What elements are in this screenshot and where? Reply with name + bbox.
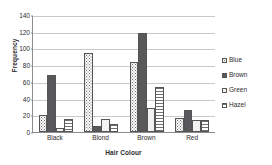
- y-axis-tick-label: 0: [8, 130, 30, 137]
- bar-group: [170, 16, 216, 132]
- bar: [192, 120, 201, 132]
- y-axis-tick-label: 60: [8, 80, 30, 87]
- x-axis-tick-label: Black: [32, 135, 78, 142]
- plot-area: 020406080100120140: [32, 16, 215, 133]
- legend-item: Hazel: [222, 102, 247, 109]
- bar: [56, 128, 65, 132]
- bar: [47, 75, 56, 132]
- legend-item: Blue: [222, 57, 247, 64]
- bar-group: [79, 16, 125, 132]
- legend-item: Brown: [222, 72, 247, 79]
- legend-swatch-icon: [222, 88, 227, 93]
- bar-group: [33, 16, 79, 132]
- bar-group: [124, 16, 170, 132]
- x-axis-tick-label: Red: [169, 135, 215, 142]
- legend-swatch-icon: [222, 73, 227, 78]
- bar: [84, 53, 93, 132]
- bar: [138, 33, 147, 132]
- legend: BlueBrownGreenHazel: [222, 57, 247, 109]
- y-axis-tick-label: 40: [8, 96, 30, 103]
- y-axis-tick-label: 120: [8, 29, 30, 36]
- bar: [93, 126, 102, 132]
- y-axis-tick-label: 80: [8, 63, 30, 70]
- legend-label: Blue: [229, 57, 242, 64]
- legend-label: Green: [229, 87, 247, 94]
- bar: [201, 120, 210, 132]
- legend-swatch-icon: [222, 58, 227, 63]
- bar: [64, 119, 73, 132]
- bar: [184, 110, 193, 132]
- x-axis-tick-labels: BlackBlondBrownRed: [32, 135, 215, 142]
- bar-groups: [33, 16, 215, 132]
- y-axis-tick-mark: [31, 133, 33, 134]
- bar: [175, 118, 184, 132]
- y-axis-tick-label: 140: [8, 13, 30, 20]
- legend-swatch-icon: [222, 103, 227, 108]
- y-axis-tick-label: 100: [8, 46, 30, 53]
- legend-label: Hazel: [229, 102, 246, 109]
- bar: [39, 115, 48, 132]
- x-axis-title: Hair Colour: [32, 149, 215, 156]
- bar: [155, 87, 164, 132]
- bar: [147, 108, 156, 132]
- x-axis-tick-label: Brown: [124, 135, 170, 142]
- y-axis-tick-label: 20: [8, 113, 30, 120]
- bar-chart: Frequency 020406080100120140 BlackBlondB…: [0, 0, 272, 165]
- bar: [101, 119, 110, 132]
- legend-label: Brown: [229, 72, 247, 79]
- legend-item: Green: [222, 87, 247, 94]
- bar: [110, 124, 119, 132]
- bar: [130, 62, 139, 132]
- x-axis-tick-label: Blond: [78, 135, 124, 142]
